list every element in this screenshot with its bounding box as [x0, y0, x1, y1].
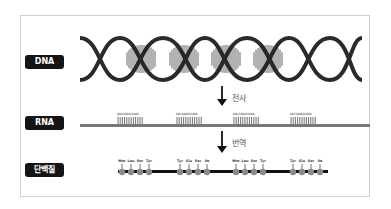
- amino-acid-label: Leu: [128, 159, 135, 163]
- amino-acid-bead: [260, 169, 266, 175]
- amino-acid-label: Met: [232, 159, 240, 163]
- amino-acid-label: Tyr: [290, 159, 296, 163]
- amino-acid-bead: [233, 169, 239, 175]
- amino-acid-bead: [299, 169, 305, 175]
- translation-label: 번역: [232, 137, 246, 148]
- translation-arrow: [217, 131, 227, 153]
- diagram-graphics: AUGCUUUCGUAUUACGAAAGCAUAAUGCUUUCGUAUUACG…: [0, 0, 391, 209]
- amino-acid-bead: [177, 169, 183, 175]
- amino-acid-bead: [146, 169, 152, 175]
- amino-acid-label: Tyr: [260, 159, 266, 163]
- rna-sequence: AUGCUUUCGUAU: [117, 112, 139, 116]
- amino-acid-label: Tyr: [177, 159, 183, 163]
- amino-acid-label: Ser: [251, 159, 258, 163]
- transcription-arrow: [217, 86, 227, 106]
- amino-acid-bead: [195, 169, 201, 175]
- amino-acid-bead: [137, 169, 143, 175]
- amino-acid-bead: [242, 169, 248, 175]
- amino-acid-label: Ser: [137, 159, 144, 163]
- rna-sequence: UACGAAAGCAUA: [290, 112, 312, 116]
- amino-acid-label: Ser: [195, 159, 202, 163]
- amino-acid-bead: [119, 169, 125, 175]
- amino-acid-bead: [251, 169, 257, 175]
- amino-acid-bead: [186, 169, 192, 175]
- amino-acid-label: Tyr: [146, 159, 152, 163]
- dna-base-pairs: [127, 45, 282, 73]
- rna-strand: [80, 124, 370, 127]
- amino-acid-label: Glu: [186, 159, 193, 163]
- amino-acid-label: Glu: [299, 159, 306, 163]
- amino-acid-bead: [317, 169, 323, 175]
- amino-acid-label: Ile: [205, 159, 210, 163]
- amino-acid-label: Ile: [318, 159, 323, 163]
- amino-acid-bead: [204, 169, 210, 175]
- rna-sequence: UACGAAAGCAUA: [176, 112, 198, 116]
- amino-acid-label: Met: [118, 159, 126, 163]
- amino-acid-bead: [308, 169, 314, 175]
- dna-helix: [80, 38, 362, 80]
- transcription-label: 전사: [232, 92, 246, 103]
- amino-acid-label: Ser: [308, 159, 315, 163]
- rna-sequence: AUGCUUUCGUAU: [233, 112, 255, 116]
- rna-sequences: AUGCUUUCGUAUUACGAAAGCAUAAUGCUUUCGUAUUACG…: [117, 112, 315, 124]
- amino-acid-label: Leu: [242, 159, 249, 163]
- amino-acid-bead: [128, 169, 134, 175]
- amino-acid-bead: [290, 169, 296, 175]
